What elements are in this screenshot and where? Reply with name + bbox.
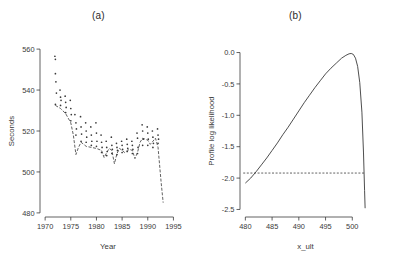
data-point (126, 143, 128, 145)
data-point (75, 134, 77, 136)
data-point (142, 130, 144, 132)
likelihood-curve (245, 53, 365, 208)
panel-a-plot: 480500520540560197019751980198519901995Y… (0, 0, 197, 269)
x-axis-tick-label: 1985 (114, 222, 130, 231)
data-point (152, 136, 154, 138)
y-axis-tick-label: 480 (22, 209, 34, 218)
x-axis-tick-label: 500 (346, 222, 358, 231)
data-point (85, 130, 87, 132)
data-point (96, 140, 98, 142)
data-point (96, 146, 98, 148)
x-axis-tick-label: 485 (266, 222, 278, 231)
data-point (105, 140, 107, 142)
data-point (64, 95, 66, 97)
data-point (74, 114, 76, 116)
x-axis-tick-label: 490 (293, 222, 305, 231)
x-axis-tick-label: 480 (239, 222, 251, 231)
data-point (54, 55, 56, 57)
y-axis-tick-label: -2.5 (222, 205, 235, 214)
y-axis-tick-label: 520 (22, 127, 34, 136)
data-point (141, 124, 143, 126)
y-axis-title: Seconds (7, 116, 16, 146)
data-point (101, 147, 103, 149)
data-point (100, 134, 102, 136)
panel-a: (a) 480500520540560197019751980198519901… (0, 0, 197, 269)
data-point (122, 149, 124, 151)
data-point (116, 147, 118, 149)
data-point (70, 120, 72, 122)
panel-b: (b) 0.0-0.5-1.0-1.5-2.0-2.54804854904955… (197, 0, 394, 269)
data-point (106, 147, 108, 149)
data-point (90, 134, 92, 136)
x-axis-tick-label: 1970 (37, 222, 53, 231)
data-point (65, 101, 67, 103)
data-point (131, 140, 133, 142)
y-axis-tick-label: 0.0 (224, 48, 234, 57)
data-point (96, 132, 98, 134)
x-axis-tick-label: 1990 (140, 222, 156, 231)
data-point (65, 107, 67, 109)
data-point (70, 114, 72, 116)
data-point (80, 116, 82, 118)
data-point (55, 73, 57, 75)
figure-root: (a) 480500520540560197019751980198519901… (0, 0, 394, 269)
data-point (157, 134, 159, 136)
y-axis-tick-label: -1.0 (222, 111, 235, 120)
data-point (136, 132, 138, 134)
data-point (127, 148, 129, 150)
data-point (60, 99, 62, 101)
data-point (95, 122, 97, 124)
data-point (106, 155, 108, 157)
data-point (81, 133, 83, 135)
data-point (85, 141, 87, 143)
data-point (121, 140, 123, 142)
data-point (137, 137, 139, 139)
data-point (80, 126, 82, 128)
data-point (75, 122, 77, 124)
data-point (110, 136, 112, 138)
data-point (70, 108, 72, 110)
data-point (56, 92, 58, 94)
data-point (90, 144, 92, 146)
data-point (126, 138, 128, 140)
data-point (101, 141, 103, 143)
x-axis-tick-label: 1980 (88, 222, 104, 231)
data-point (153, 142, 155, 144)
data-point (121, 144, 123, 146)
data-point (76, 128, 78, 130)
data-point (121, 152, 123, 154)
data-point (132, 144, 134, 146)
data-point (55, 81, 57, 83)
y-axis-tick-label: -1.5 (222, 142, 235, 151)
data-point (55, 58, 57, 60)
scatter-points (54, 55, 159, 156)
data-point (158, 138, 160, 140)
data-point (60, 105, 62, 107)
data-point (60, 96, 62, 98)
data-point (59, 89, 61, 91)
data-point (147, 132, 149, 134)
panel-b-plot: 0.0-0.5-1.0-1.5-2.0-2.5480485490495500x_… (197, 0, 394, 269)
data-point (152, 147, 154, 149)
data-point (147, 144, 149, 146)
x-axis-tick-label: 495 (319, 222, 331, 231)
fitted-curve (55, 105, 163, 202)
data-point (85, 122, 87, 124)
y-axis-tick-label: -2.0 (222, 174, 235, 183)
y-axis-tick-label: -0.5 (222, 80, 235, 89)
data-point (86, 136, 88, 138)
data-point (157, 128, 159, 130)
x-axis-tick-label: 1995 (165, 222, 181, 231)
data-point (69, 99, 71, 101)
x-axis-title: x_ult (297, 242, 314, 251)
y-axis-tick-label: 500 (22, 168, 34, 177)
y-axis-tick-label: 540 (22, 86, 34, 95)
data-point (142, 144, 144, 146)
data-point (90, 126, 92, 128)
data-point (146, 126, 148, 128)
data-point (116, 142, 118, 144)
x-axis-title: Year (100, 242, 116, 251)
data-point (55, 104, 57, 106)
data-point (111, 144, 113, 146)
data-point (91, 140, 93, 142)
